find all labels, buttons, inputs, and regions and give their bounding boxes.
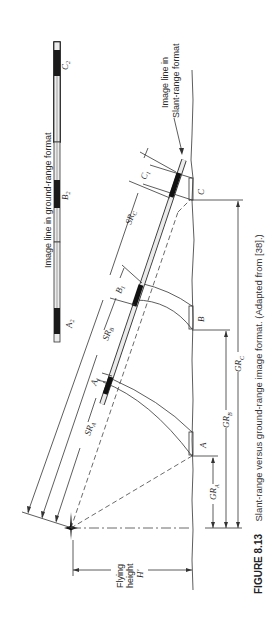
c1-ext-lower (129, 181, 170, 198)
sr-a-line-upper (88, 398, 96, 422)
sr-c-line-lower (28, 300, 103, 512)
label-b: B (196, 316, 206, 322)
label-b1: B1 (113, 283, 126, 294)
slant-ray-a (71, 456, 192, 528)
arrowhead-icon (186, 568, 192, 572)
arc-b-upper (140, 283, 192, 306)
slant-ray-c-tip (178, 200, 190, 212)
sr-b-line-upper (104, 298, 116, 330)
figure-caption-text: Slant-range versus ground-range image fo… (253, 234, 264, 521)
label-c1: C1 (138, 169, 151, 181)
arc-c-lower (143, 184, 192, 200)
label-c2: C2 (60, 61, 71, 70)
figure-caption: FIGURE 8.13 Slant-range versus ground-ra… (248, 234, 265, 594)
b1-ext-upper (122, 265, 142, 283)
label-a2: A2 (64, 320, 75, 330)
label-sr-a: SRA (82, 420, 97, 437)
arc-c-upper (150, 165, 192, 178)
label-b2: B2 (60, 192, 71, 201)
label-sr-b: SRB (100, 325, 115, 342)
arrowhead-icon (236, 522, 240, 528)
figure-number: FIGURE 8.13 (253, 534, 264, 594)
label-gr-a: GRA (208, 484, 220, 500)
arrowhead-icon (41, 511, 45, 519)
label-a1: A1 (88, 375, 101, 387)
arc-a-lower (103, 382, 192, 456)
slant-vs-ground-range-diagram: C2 B2 A2 Image line in ground-range form… (0, 0, 267, 624)
slant-range-strip-label-line1: Image line in (160, 57, 170, 108)
arrowhead-icon (179, 148, 184, 155)
sr-a-line-lower (56, 448, 80, 521)
slant-label-arrow (174, 118, 182, 152)
ground-range-strip-label: Image line in ground-range format (43, 132, 53, 268)
label-gr-b: GRB (221, 412, 233, 428)
sr-c-line-upper (110, 193, 138, 275)
label-sr-c: SRC (123, 208, 138, 226)
label-gr-c: GRC (233, 355, 245, 372)
label-c: C (196, 188, 206, 195)
arrowhead-icon (211, 457, 215, 463)
arrowhead-icon (211, 522, 215, 528)
arrowhead-icon (73, 568, 79, 572)
arrowhead-icon (224, 331, 228, 337)
flying-height-symbol: H' (135, 569, 145, 579)
slant-range-base-line (22, 512, 72, 528)
slant-ray-c-edge (71, 212, 178, 528)
arrowhead-icon (236, 201, 240, 207)
slant-range-image-strip (102, 160, 184, 404)
b1-dim-tick (120, 268, 124, 278)
arc-a-upper (110, 378, 192, 432)
ground-range-strip-body (54, 42, 60, 342)
flying-height-label-line2: height (125, 563, 135, 588)
arrowhead-icon (224, 522, 228, 528)
arrowhead-icon (27, 506, 31, 514)
flying-height-label-line1: Flying (115, 564, 125, 588)
label-a: A (198, 442, 208, 449)
arrowhead-icon (55, 515, 59, 523)
slant-range-strip-label-line2: Slant-range format (171, 43, 181, 118)
